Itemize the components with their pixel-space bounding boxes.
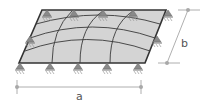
dimension-a-label: a [76,90,83,103]
plate [19,10,166,63]
dimension-b-label: b [181,37,188,50]
supports-bottom [15,63,143,74]
plate-diagram: a b [0,0,210,106]
